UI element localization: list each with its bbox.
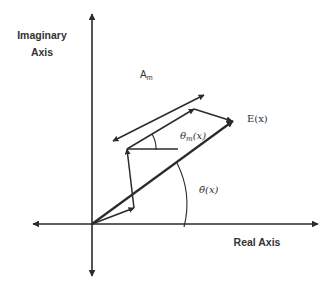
theta-bar-arc xyxy=(177,163,187,227)
resultant-vector xyxy=(92,121,233,224)
theta-m-arc xyxy=(152,134,156,150)
component-vector-2 xyxy=(127,149,134,208)
theta-bar-label: θ̄(x) xyxy=(199,184,219,195)
component-vector-3 xyxy=(194,109,232,121)
component-vector-1 xyxy=(92,208,134,224)
real-axis-label: Real Axis xyxy=(234,236,281,248)
imaginary-axis-label-line2: Axis xyxy=(31,46,53,58)
phasor-diagram: Imaginary Axis Real Axis Am E(x) θm(x) θ… xyxy=(0,0,332,290)
theta-m-label: θm(x) xyxy=(180,130,206,143)
resultant-label: E(x) xyxy=(247,113,268,124)
amplitude-label: Am xyxy=(140,69,153,81)
imaginary-axis-label-line1: Imaginary xyxy=(17,29,67,41)
